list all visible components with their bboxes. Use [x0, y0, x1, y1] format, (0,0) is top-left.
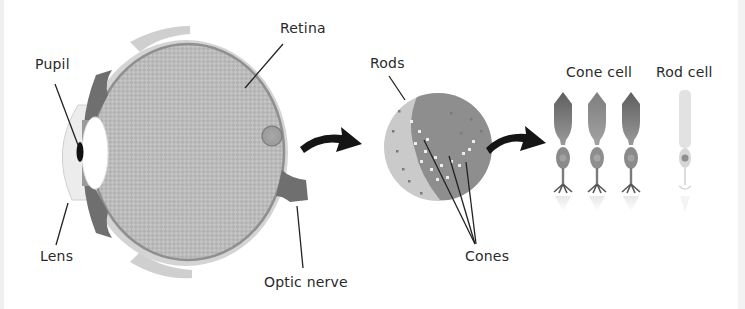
rod-cell [679, 90, 691, 212]
rods-leader-line [389, 76, 405, 100]
eye-photoreceptor-diagram: Pupil Retina Lens Optic nerve Rods Cones… [0, 0, 745, 309]
cone-cell-3 [622, 92, 640, 212]
lens-leader-line [56, 203, 68, 245]
rod-cell-label: Rod cell [656, 64, 713, 80]
retina-closeup [384, 90, 500, 201]
pupil-label: Pupil [35, 56, 70, 72]
cone-cell-2 [588, 92, 606, 212]
diagram-artwork [0, 0, 745, 309]
retina-label: Retina [280, 20, 326, 36]
cone-cell-1 [554, 92, 572, 212]
lens-label: Lens [40, 248, 73, 264]
optic-nerve-leader-line [297, 206, 303, 268]
eyeball [62, 26, 308, 278]
optic-nerve-label: Optic nerve [264, 274, 348, 290]
cone-cell-label: Cone cell [566, 64, 632, 80]
arrow-eye-to-retina-icon [300, 127, 362, 153]
rods-label: Rods [370, 55, 405, 71]
arrow-retina-to-cells-icon [486, 126, 546, 154]
cones-label: Cones [465, 248, 509, 264]
